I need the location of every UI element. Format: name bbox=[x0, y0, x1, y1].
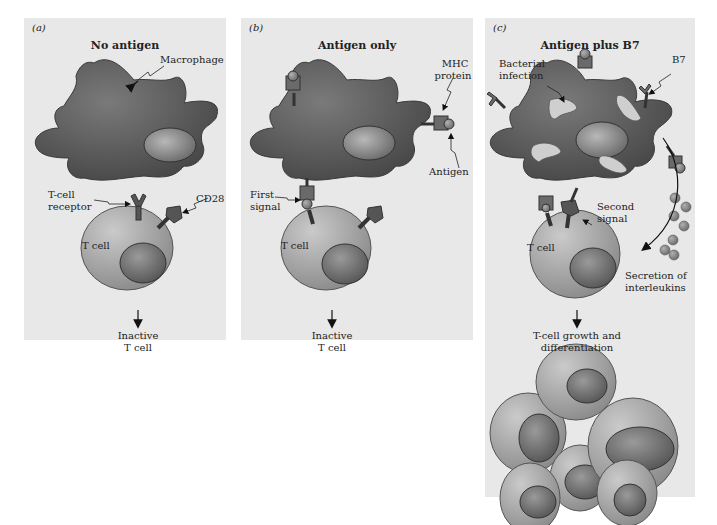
panel-antigen-plus-b7: (c) Antigen plus B7 bbox=[485, 18, 695, 497]
tcell-label: T cell bbox=[82, 240, 110, 252]
second-signal-label-2: signal bbox=[597, 213, 627, 225]
b7-label: B7 bbox=[672, 54, 686, 66]
outcome-label-2: differentiation bbox=[507, 342, 647, 354]
proliferating-tcells-icon bbox=[490, 344, 678, 525]
macrophage-icon bbox=[250, 60, 430, 180]
tcell-label: T cell bbox=[527, 242, 555, 254]
outcome-label-1: Inactive bbox=[88, 330, 188, 342]
outcome-label-1: Inactive bbox=[282, 330, 382, 342]
cd28-icon bbox=[359, 206, 383, 228]
secretion-label-1: Secretion of bbox=[625, 270, 687, 282]
outcome-b-label-2: T cell bbox=[282, 342, 382, 354]
bacterial-infection-label-1: Bacterial bbox=[499, 58, 545, 70]
bacterial-infection-label-2: infection bbox=[499, 70, 544, 82]
antigen-label: Antigen bbox=[429, 166, 469, 178]
first-signal-label-1: First bbox=[250, 189, 274, 201]
outcome-label-1: T-cell growth and bbox=[507, 330, 647, 342]
tcell-receptor-label-1: T-cell bbox=[48, 189, 75, 201]
tcell-label: T cell bbox=[281, 240, 309, 252]
cd28-label: CD28 bbox=[196, 193, 224, 205]
first-signal-label-2: signal bbox=[250, 201, 280, 213]
mhc-label-1: MHC bbox=[435, 58, 475, 70]
panel-no-antigen: (a) No antigen Macrophage T-cell recepto… bbox=[24, 18, 226, 340]
tcell-receptor-label-2: receptor bbox=[48, 201, 91, 213]
panel-antigen-only: (b) Antigen only bbox=[241, 18, 473, 340]
second-signal-label-1: Second bbox=[597, 201, 634, 213]
panel-c-illustration bbox=[485, 18, 695, 497]
cd28-icon bbox=[158, 206, 182, 228]
secretion-label-2: interleukins bbox=[625, 282, 686, 294]
panel-a-illustration bbox=[24, 18, 226, 340]
outcome-a-label-2: T cell bbox=[88, 342, 188, 354]
mhc-label-2: protein bbox=[431, 70, 475, 82]
macrophage-label: Macrophage bbox=[160, 54, 224, 66]
macrophage-icon bbox=[35, 60, 217, 180]
